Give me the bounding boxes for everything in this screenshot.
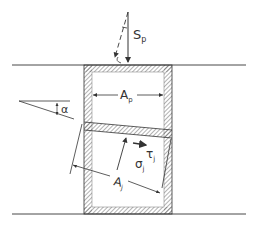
joint-area-label: Aj xyxy=(112,174,125,192)
shear-stress-label: τj xyxy=(146,147,155,163)
inclined-joint xyxy=(84,122,172,138)
load-label: Sp xyxy=(133,27,146,44)
diagram-canvas: Sp Ap α Aj σj τj xyxy=(0,0,258,226)
plate-area-label: Ap xyxy=(120,88,133,104)
normal-stress-arrow xyxy=(117,138,126,170)
shear-stress-arrow xyxy=(133,143,146,145)
normal-stress-label: σj xyxy=(135,157,145,173)
angle-label: α xyxy=(61,103,68,116)
load-arrow xyxy=(115,12,128,63)
